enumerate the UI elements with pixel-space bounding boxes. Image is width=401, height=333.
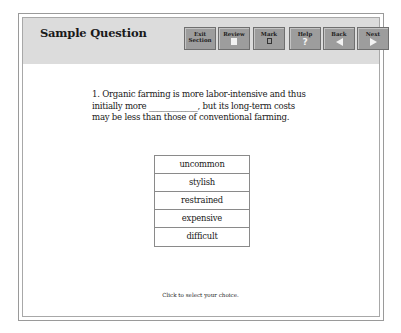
- choice-uncommon[interactable]: uncommon: [155, 156, 249, 174]
- question-line-2: initially more ____________, but its lon…: [92, 101, 342, 113]
- review-label: Review: [219, 28, 249, 37]
- arrow-right-icon: [370, 38, 377, 46]
- exit-section-label-line1: Exit: [185, 28, 215, 37]
- exit-section-button[interactable]: Exit Section: [184, 27, 216, 50]
- choice-difficult[interactable]: difficult: [155, 228, 249, 246]
- mark-label: Mark: [254, 28, 284, 37]
- help-label: Help: [290, 28, 320, 37]
- exit-section-label-line2: Section: [185, 37, 215, 43]
- instruction-text: Click to select your choice.: [0, 292, 401, 298]
- next-label: Next: [358, 28, 388, 37]
- review-button[interactable]: Review: [218, 27, 250, 50]
- arrow-left-icon: [336, 38, 343, 46]
- help-button[interactable]: Help ?: [289, 27, 321, 50]
- back-button[interactable]: Back: [323, 27, 355, 50]
- answer-choices-list: uncommon stylish restrained expensive di…: [154, 155, 250, 247]
- choice-expensive[interactable]: expensive: [155, 210, 249, 228]
- page-title: Sample Question: [40, 26, 147, 40]
- question-text: 1. Organic farming is more labor-intensi…: [92, 89, 342, 124]
- question-line-1: 1. Organic farming is more labor-intensi…: [92, 89, 342, 101]
- choice-restrained[interactable]: restrained: [155, 192, 249, 210]
- next-button[interactable]: Next: [357, 27, 389, 50]
- question-mark-icon: ?: [290, 38, 320, 46]
- choice-stylish[interactable]: stylish: [155, 174, 249, 192]
- document-icon: [231, 38, 237, 45]
- back-label: Back: [324, 28, 354, 37]
- mark-button[interactable]: Mark: [253, 27, 285, 50]
- checkbox-icon: [267, 38, 272, 44]
- question-line-3: may be less than those of conventional f…: [92, 112, 342, 124]
